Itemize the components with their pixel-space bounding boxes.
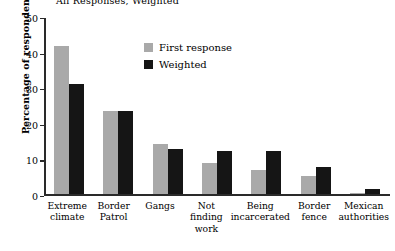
- bar-weighted[interactable]: [118, 111, 133, 195]
- bar-weighted[interactable]: [316, 167, 331, 194]
- x-axis-label-line: Mexican: [338, 200, 389, 211]
- x-axis-label-line: Gangs: [138, 200, 182, 211]
- bar-first-response[interactable]: [301, 176, 316, 195]
- legend-swatch-icon: [144, 60, 153, 69]
- legend-item-weighted: Weighted: [144, 58, 232, 70]
- y-tick-label: 30: [26, 84, 38, 95]
- x-axis-label-line: work: [184, 223, 228, 234]
- bar-weighted[interactable]: [217, 151, 232, 194]
- x-axis-label: Beingincarcerated: [230, 200, 291, 234]
- bar-weighted[interactable]: [266, 151, 281, 194]
- legend-label: First response: [159, 42, 232, 53]
- legend-swatch-icon: [144, 43, 153, 52]
- x-axis-label-line: Being: [231, 200, 290, 211]
- bar-weighted[interactable]: [365, 189, 380, 194]
- bar-group: [44, 18, 93, 194]
- bar-weighted[interactable]: [69, 84, 84, 194]
- x-axis-label: BorderPatrol: [90, 200, 136, 234]
- y-tick-label: 50: [26, 13, 38, 24]
- bar-first-response[interactable]: [153, 144, 168, 194]
- bar-first-response[interactable]: [251, 170, 266, 194]
- x-axis-labels: ExtremeclimateBorderPatrolGangsNotfindin…: [44, 200, 390, 234]
- x-axis-label-line: Extreme: [45, 200, 89, 211]
- x-axis-label: Gangs: [137, 200, 183, 234]
- x-axis-label: Extremeclimate: [44, 200, 90, 234]
- x-axis-label-line: authorities: [338, 211, 389, 222]
- bar-first-response[interactable]: [350, 193, 365, 194]
- x-axis-label: Mexicanauthorities: [337, 200, 390, 234]
- x-axis-label-line: finding: [184, 211, 228, 222]
- x-axis-label-line: incarcerated: [231, 211, 290, 222]
- y-tick-label: 10: [26, 155, 38, 166]
- x-axis-label: Borderfence: [291, 200, 337, 234]
- bar-group: [242, 18, 291, 194]
- bar-group: [291, 18, 340, 194]
- legend-item-first-response: First response: [144, 41, 232, 53]
- bar-first-response[interactable]: [54, 46, 69, 194]
- x-axis-label-line: climate: [45, 211, 89, 222]
- y-tick-label: 40: [26, 48, 38, 59]
- x-axis-label-line: fence: [292, 211, 336, 222]
- chart-container: All Responses, Weighted Percentage of re…: [0, 0, 395, 251]
- x-axis-label-line: Patrol: [91, 211, 135, 222]
- x-axis-line: [44, 194, 390, 196]
- x-axis-label-line: Border: [91, 200, 135, 211]
- chart-legend: First response Weighted: [144, 41, 232, 75]
- bar-weighted[interactable]: [168, 149, 183, 195]
- x-axis-label-line: Not: [184, 200, 228, 211]
- bar-first-response[interactable]: [103, 111, 118, 194]
- legend-label: Weighted: [159, 59, 207, 70]
- x-axis-label-line: Border: [292, 200, 336, 211]
- bar-group: [93, 18, 142, 194]
- bar-first-response[interactable]: [202, 163, 217, 194]
- bar-group: [341, 18, 390, 194]
- y-tick-label: 20: [26, 119, 38, 130]
- y-tick-mark: [40, 196, 44, 197]
- y-tick-label: 0: [32, 191, 38, 202]
- x-axis-label: Notfindingwork: [183, 200, 229, 234]
- chart-title: All Responses, Weighted: [56, 0, 179, 6]
